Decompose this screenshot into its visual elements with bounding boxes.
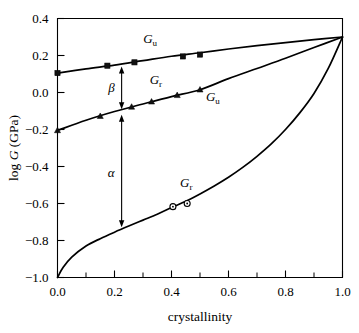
beta-arrow-head-down <box>119 102 124 109</box>
beta-arrow-head-up <box>119 67 124 74</box>
alpha-arrow-head-up <box>119 115 124 122</box>
series-label-gr-middle: Gr <box>150 72 162 89</box>
data-point-square <box>105 63 110 68</box>
data-point-square <box>197 52 202 57</box>
y-axis-title: log G (GPa) <box>6 115 21 181</box>
chart-figure: 0.40.20.0−0.2−0.4−0.6−0.8−1.00.00.20.40.… <box>0 0 359 333</box>
x-tick-label: 0.2 <box>106 284 122 299</box>
data-point-circle-center <box>186 203 188 205</box>
x-tick-label: 1.0 <box>334 284 350 299</box>
data-curve <box>58 37 343 278</box>
curve-layer <box>58 37 343 278</box>
series-label-gu-top: Gu <box>143 31 157 48</box>
data-point-square <box>180 54 185 59</box>
y-tick-label: −0.6 <box>25 196 49 211</box>
x-tick-label: 0.4 <box>163 284 180 299</box>
x-tick-label: 0.6 <box>220 284 237 299</box>
y-tick-label: 0.4 <box>32 11 49 26</box>
series-label-gr-lower: Gr <box>180 175 192 192</box>
y-tick-label: −1.0 <box>25 270 49 285</box>
y-tick-label: 0.0 <box>32 85 48 100</box>
y-tick-label: 0.2 <box>32 48 48 63</box>
series-label-gu-middle: Gu <box>206 89 220 106</box>
data-point-square <box>132 60 137 65</box>
beta-annotation-label: β <box>107 80 115 95</box>
y-tick-label: −0.4 <box>25 159 49 174</box>
data-point-circle-center <box>172 206 174 208</box>
y-tick-label: −0.2 <box>25 122 49 137</box>
chart-svg: 0.40.20.0−0.2−0.4−0.6−0.8−1.00.00.20.40.… <box>0 0 359 333</box>
alpha-arrow-head-down <box>119 220 124 227</box>
x-tick-label: 0.8 <box>277 284 293 299</box>
annotation-layer: βα <box>107 67 124 228</box>
x-axis-title: crystallinity <box>168 309 233 324</box>
data-point-square <box>55 70 60 75</box>
alpha-annotation-label: α <box>108 165 116 180</box>
y-tick-label: −0.8 <box>25 233 49 248</box>
x-tick-label: 0.0 <box>49 284 65 299</box>
